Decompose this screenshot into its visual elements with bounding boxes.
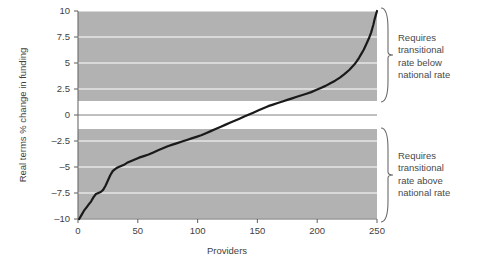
y-axis-tick-labels: 107.552.50–2.5–5–7.5–10 xyxy=(52,5,71,224)
y-axis-tick-label: 0 xyxy=(65,109,70,120)
annotation-line: national rate xyxy=(398,69,450,80)
annotation-line: transitional xyxy=(398,44,444,55)
plot-band-upper xyxy=(78,11,377,101)
annotation-line: Requires xyxy=(398,150,436,161)
x-axis-tick-labels: 050100150200250 xyxy=(75,225,385,236)
x-axis-tick-label: 100 xyxy=(190,225,206,236)
chart-figure: 107.552.50–2.5–5–7.5–10 050100150200250 … xyxy=(0,0,478,269)
y-axis-tick-label: –7.5 xyxy=(52,187,71,198)
annotation-line: rate below xyxy=(398,57,442,68)
y-axis-tick-label: –2.5 xyxy=(52,135,71,146)
annotation-line: rate above xyxy=(398,175,443,186)
upper-bracket-icon xyxy=(381,8,393,102)
y-axis-tick-label: 5 xyxy=(65,57,70,68)
y-axis-title: Real terms % change in funding xyxy=(17,48,28,183)
plot-band-lower xyxy=(78,129,377,219)
x-axis-tick-label: 50 xyxy=(133,225,144,236)
y-axis-tick-label: 2.5 xyxy=(57,83,70,94)
x-axis-tick-label: 250 xyxy=(369,225,385,236)
y-axis-tick-label: 7.5 xyxy=(57,31,70,42)
x-axis-ticks xyxy=(78,219,377,223)
chart-svg: 107.552.50–2.5–5–7.5–10 050100150200250 … xyxy=(0,0,478,269)
lower-bracket-icon xyxy=(381,128,393,222)
y-axis-tick-label: 10 xyxy=(59,5,70,16)
y-axis-tick-label: –5 xyxy=(59,161,70,172)
x-axis-title: Providers xyxy=(207,245,247,256)
x-axis-tick-label: 0 xyxy=(75,225,80,236)
x-axis-tick-label: 150 xyxy=(249,225,265,236)
upper-bracket-annotation: Requirestransitionalrate belownational r… xyxy=(398,32,450,81)
x-axis-tick-label: 200 xyxy=(309,225,325,236)
y-axis-tick-label: –10 xyxy=(54,213,70,224)
lower-bracket-annotation: Requirestransitionalrate abovenational r… xyxy=(398,150,450,199)
annotation-line: transitional xyxy=(398,162,444,173)
y-axis-ticks xyxy=(74,11,78,219)
annotation-line: national rate xyxy=(398,187,450,198)
annotation-line: Requires xyxy=(398,32,436,43)
